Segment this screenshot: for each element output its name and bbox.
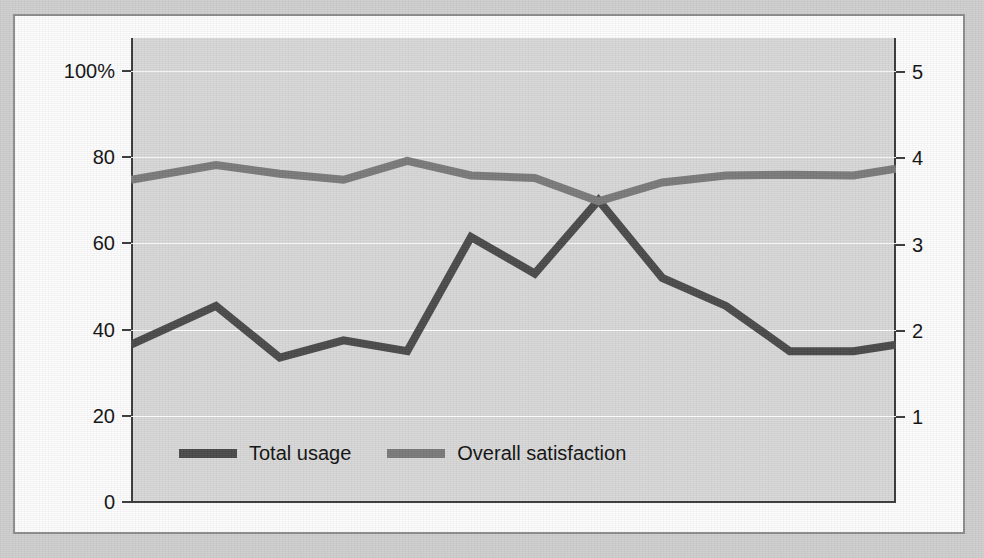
- legend-label: Overall satisfaction: [457, 442, 626, 465]
- series-line-overall-satisfaction: [131, 161, 896, 202]
- left-tick-label: 0: [104, 491, 115, 514]
- right-tick-label: 1: [912, 406, 923, 429]
- left-tick-mark: [122, 156, 131, 158]
- right-tick-mark: [896, 330, 905, 332]
- right-tick-label: 4: [912, 147, 923, 170]
- left-tick-mark: [122, 415, 131, 417]
- legend-label: Total usage: [249, 442, 351, 465]
- right-tick-label: 3: [912, 233, 923, 256]
- series-lines: [131, 38, 896, 503]
- left-tick-mark: [122, 70, 131, 72]
- right-tick-mark: [896, 416, 905, 418]
- left-tick-mark: [122, 242, 131, 244]
- right-tick-label: 2: [912, 319, 923, 342]
- right-tick-mark: [896, 71, 905, 73]
- right-tick-mark: [896, 244, 905, 246]
- plot-area-wrapper: 100%806040200 54321 Total usageOverall s…: [131, 38, 896, 503]
- left-tick-mark: [122, 501, 131, 503]
- left-tick-label: 60: [93, 232, 115, 255]
- series-line-total-usage: [131, 200, 896, 357]
- chart-legend: Total usageOverall satisfaction: [179, 442, 626, 465]
- right-tick-label: 5: [912, 61, 923, 84]
- legend-item: Overall satisfaction: [387, 442, 626, 465]
- right-tick-mark: [896, 157, 905, 159]
- left-tick-label: 20: [93, 404, 115, 427]
- left-tick-label: 40: [93, 318, 115, 341]
- left-tick-label: 100%: [64, 60, 115, 83]
- legend-swatch: [387, 449, 445, 458]
- left-tick-label: 80: [93, 146, 115, 169]
- legend-swatch: [179, 449, 237, 458]
- left-tick-mark: [122, 329, 131, 331]
- legend-item: Total usage: [179, 442, 351, 465]
